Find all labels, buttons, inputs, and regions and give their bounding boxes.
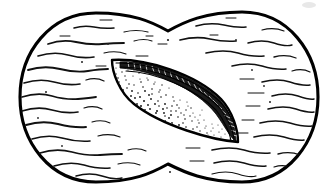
line-art-illustration: Bilobed sectioned body with embedded len… (0, 0, 336, 195)
scan-artifact-smudge (302, 2, 316, 8)
figure-root: Bilobed sectioned body with embedded len… (0, 0, 336, 195)
